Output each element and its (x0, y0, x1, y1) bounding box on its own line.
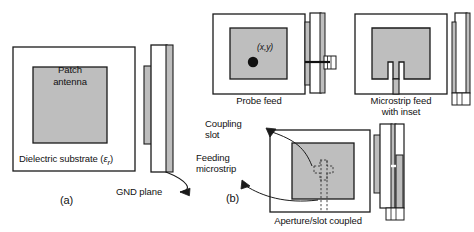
patch-metal-aperture (292, 143, 354, 199)
gnd-plane-leader-line (166, 172, 187, 192)
panel-letter-b: (b) (226, 193, 239, 204)
probe-feed-caption: Probe feed (236, 95, 281, 106)
side-gnd-strip-a (166, 45, 173, 172)
probe-feed-point (248, 57, 258, 67)
microstrip-feed-line (393, 79, 399, 94)
gnd-plane-arrowhead (180, 188, 190, 196)
side-connector-aperture (386, 208, 404, 220)
coupling-slot-label-line1: Coupling (205, 118, 242, 129)
side-gnd-strip-microstrip (466, 13, 470, 93)
panel-basic-patch (13, 45, 190, 196)
patch-antenna-label-line2: antenna (53, 76, 87, 87)
side-gnd-strip-probe (320, 13, 325, 93)
side-upper-substrate-aperture (380, 124, 392, 208)
dielectric-substrate-label: Dielectric substrate (εr) (19, 153, 113, 168)
side-substrate-slab-microstrip (455, 13, 467, 93)
feeding-microstrip-label-line1: Feeding (196, 152, 230, 163)
microstrip-feed-caption-line1: Microstrip feed (371, 95, 432, 106)
microstrip-feed-caption-line2: with inset (382, 106, 421, 117)
panel-aperture-slot-coupled (241, 124, 404, 220)
side-substrate-slab-probe (310, 13, 321, 93)
coupling-slot-label-line2: slot (205, 129, 219, 140)
side-substrate-slab-a (151, 45, 167, 172)
dielectric-substrate-text: Dielectric substrate (19, 153, 98, 164)
side-patch-strip-microstrip (452, 22, 456, 93)
epsilon-subscript: r (107, 158, 110, 167)
feeding-microstrip-label-line2: microstrip (196, 163, 236, 174)
panel-letter-a: (a) (60, 195, 73, 206)
patch-metal-probe (230, 28, 287, 79)
aperture-slot-coupled-caption: Aperture/slot coupled (274, 215, 362, 226)
patch-antenna-label-line1: Patch (58, 64, 82, 75)
panel-microstrip-feed (355, 13, 470, 105)
panel-probe-feed (213, 13, 336, 94)
side-connector-microstrip (452, 93, 470, 105)
probe-coordinates-label: (x,y) (257, 42, 273, 53)
gnd-plane-label: GND plane (116, 186, 162, 197)
side-feed-strip-aperture (396, 155, 403, 208)
